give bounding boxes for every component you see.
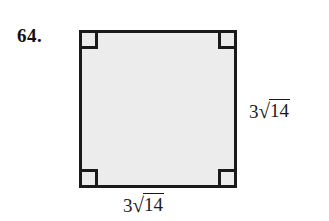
radical-coefficient: 3 xyxy=(123,196,133,215)
right-angle-mark-bottom-left xyxy=(82,169,98,185)
side-length-label-right: 3√14 xyxy=(249,100,290,122)
right-angle-mark-bottom-right xyxy=(218,169,234,185)
radical-expression-bottom: 3√14 xyxy=(123,194,164,216)
right-angle-mark-top-left xyxy=(82,33,98,49)
figure-page: 64. 3√14 3√14 xyxy=(0,0,329,221)
right-angle-mark-top-right xyxy=(218,33,234,49)
square-shape xyxy=(79,30,237,188)
problem-number-label: 64. xyxy=(17,26,42,45)
radical-expression-right: 3√14 xyxy=(249,100,290,122)
radical-radicand: 14 xyxy=(269,99,290,120)
radical-radicand: 14 xyxy=(143,193,164,214)
radical-coefficient: 3 xyxy=(249,102,259,121)
side-length-label-bottom: 3√14 xyxy=(123,194,164,216)
